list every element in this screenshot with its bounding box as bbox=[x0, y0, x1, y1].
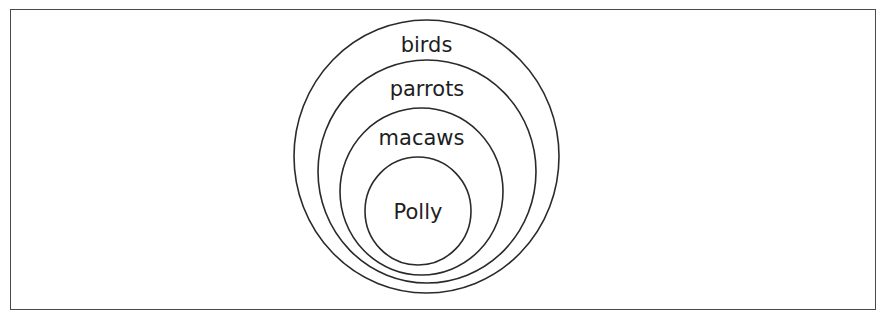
set-macaws: macaws bbox=[340, 108, 503, 275]
set-label: birds bbox=[401, 33, 453, 57]
set-birds: birds bbox=[294, 20, 559, 293]
nested-sets-diagram: birdsparrotsmacawsPolly bbox=[0, 0, 886, 322]
set-label: parrots bbox=[390, 77, 465, 101]
set-label: macaws bbox=[379, 126, 465, 150]
set-boundary-circle bbox=[294, 20, 559, 293]
set-polly: Polly bbox=[365, 157, 471, 265]
set-parrots: parrots bbox=[318, 60, 536, 283]
set-label: Polly bbox=[394, 200, 443, 224]
